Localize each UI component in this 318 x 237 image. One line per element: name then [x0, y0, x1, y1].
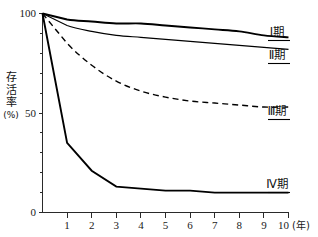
x-axis-ticks — [67, 213, 288, 218]
series-line-stage3 — [43, 14, 289, 108]
series-curves — [43, 14, 289, 193]
x-tick-label-9: 9 — [261, 219, 267, 231]
series-label-stage4: Ⅳ期 — [266, 177, 288, 191]
x-tick-label-3: 3 — [114, 219, 120, 231]
x-tick-label-7: 7 — [212, 219, 218, 231]
x-tick-label-8: 8 — [237, 219, 243, 231]
series-line-stage2 — [43, 14, 289, 50]
y-axis-major-ticks — [39, 14, 43, 213]
y-tick-label-0: 0 — [31, 206, 37, 218]
survival-rate-line-chart: 存 活 率 (%) 0 50 100 — [0, 0, 318, 237]
series-label-stage1: Ⅰ期 — [270, 25, 284, 39]
x-tick-label-4: 4 — [138, 219, 144, 231]
x-tick-label-6: 6 — [187, 219, 193, 231]
chart-canvas: 0 50 100 1 2 3 4 5 6 7 8 9 10 (年) — [0, 0, 318, 237]
y-tick-label-50: 50 — [25, 107, 37, 119]
x-tick-label-5: 5 — [163, 219, 169, 231]
series-line-stage1 — [43, 14, 289, 38]
x-tick-label-2: 2 — [89, 219, 95, 231]
x-axis-unit-label: (年) — [292, 219, 310, 231]
series-label-stage3: Ⅲ期 — [268, 104, 287, 118]
series-line-stage4 — [43, 14, 289, 193]
x-tick-label-1: 1 — [64, 219, 70, 231]
x-tick-label-10: 10 — [278, 219, 290, 231]
y-tick-label-100: 100 — [20, 7, 37, 19]
series-label-stage2: Ⅱ期 — [269, 48, 286, 62]
